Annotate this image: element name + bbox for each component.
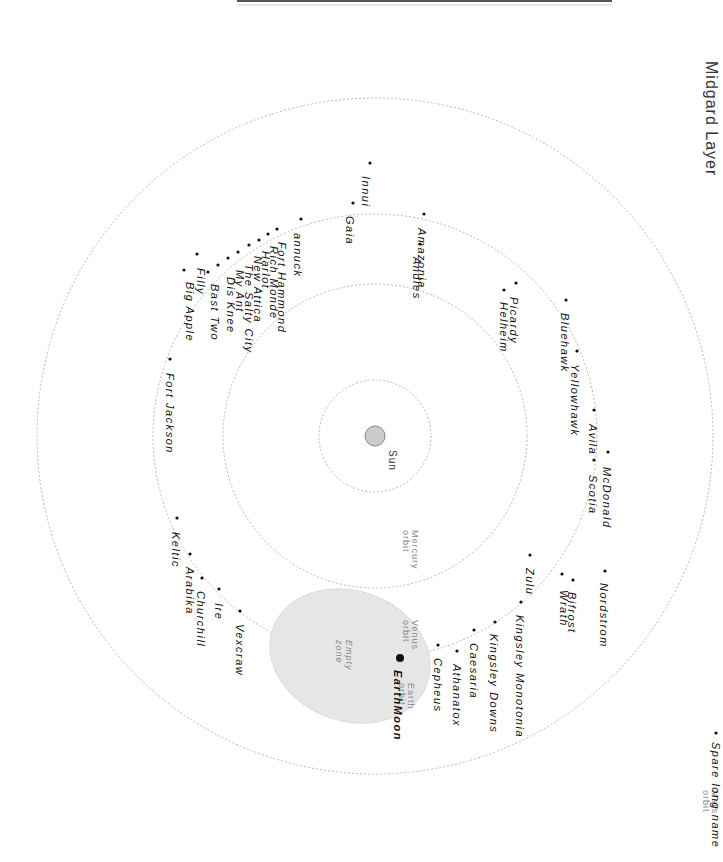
colony-label: McDonald <box>601 467 613 529</box>
colony-label: Bast Two <box>209 284 221 341</box>
colony-dot-icon[interactable] <box>472 628 475 631</box>
colony-dot-icon[interactable] <box>299 217 302 220</box>
colony-dot-icon[interactable] <box>560 572 563 575</box>
colony-dot-icon[interactable] <box>266 232 269 235</box>
colony-marker[interactable]: Bluehawk <box>559 298 571 372</box>
colony-marker[interactable]: Nordstrom <box>598 569 610 647</box>
colony-dot-icon[interactable] <box>257 238 260 241</box>
colony-label: EarthMoon <box>392 670 404 741</box>
colony-dot-icon[interactable] <box>502 288 505 291</box>
colony-label: Caesaria <box>468 643 480 699</box>
colony-label: Scotia <box>587 475 599 515</box>
colony-label: Kingsley Downs <box>488 634 500 733</box>
colony-marker[interactable]: Arabika <box>184 552 196 614</box>
colony-label: Kingsley Monotonia <box>514 615 526 738</box>
colony-marker[interactable]: annuck <box>292 217 304 277</box>
colony-dot-icon[interactable] <box>514 281 517 284</box>
colony-label: Big Apple <box>184 282 196 342</box>
colony-dot-icon[interactable] <box>564 298 567 301</box>
colony-label: Vexcraw <box>234 624 246 676</box>
orbit-labels: MercuryorbitVenusorbitEarthorbitMarsorbi… <box>397 530 720 814</box>
colony-marker[interactable]: Big Apple <box>182 268 196 342</box>
colony-marker[interactable]: Ire <box>213 587 225 620</box>
colony-label: Athanatox <box>451 663 463 727</box>
colony-label: Gaia <box>344 216 356 245</box>
colony-marker[interactable]: Cepheus <box>432 643 444 712</box>
colony-label: Ire <box>213 603 225 620</box>
colony-marker[interactable]: Kingsley Downs <box>488 620 500 733</box>
colony-dot-icon[interactable] <box>247 243 250 246</box>
colony-dot-icon[interactable] <box>236 250 239 253</box>
empty-zone-label-line2: zone <box>334 639 344 664</box>
colony-marker[interactable]: Kingsley Monotonia <box>514 600 526 738</box>
colony-label: Avila <box>587 423 599 455</box>
colony-dot-icon[interactable] <box>188 552 191 555</box>
colony-dot-icon[interactable] <box>195 252 198 255</box>
colony-dot-icon[interactable] <box>592 408 595 411</box>
colony-label: Innui <box>360 176 372 207</box>
colony-marker[interactable]: Gaia <box>344 201 356 245</box>
colony-dot-icon[interactable] <box>422 212 425 215</box>
colony-marker[interactable]: Scotia <box>587 458 599 514</box>
colony-dot-icon[interactable] <box>436 643 439 646</box>
colony-marker[interactable]: McDonald <box>601 450 613 528</box>
colony-dot-icon[interactable] <box>168 357 171 360</box>
colony-dot-icon[interactable] <box>575 349 578 352</box>
orbit-label: orbit <box>401 620 411 643</box>
colony-label: Helheim <box>498 302 510 353</box>
colony-dot-icon[interactable] <box>200 576 203 579</box>
colony-dot-icon[interactable] <box>216 263 219 266</box>
colony-marker[interactable]: Zulu <box>524 553 536 595</box>
colony-marker[interactable]: Bast Two <box>206 270 221 341</box>
colony-dot-icon[interactable] <box>351 201 354 204</box>
colony-label: Keltic <box>170 532 182 568</box>
colony-marker[interactable]: Wrath <box>558 572 570 626</box>
colony-label: annuck <box>292 233 304 277</box>
colony-marker[interactable]: Avila <box>587 408 599 455</box>
orbit-label: orbit <box>401 530 411 553</box>
colony-dot-icon[interactable] <box>528 553 531 556</box>
colony-dot-icon[interactable] <box>226 256 229 259</box>
colony-marker[interactable]: Keltic <box>170 516 182 568</box>
colony-dot-icon[interactable] <box>275 227 278 230</box>
colony-label: Nordstrom <box>598 583 610 648</box>
colony-label: Wrath <box>558 590 570 627</box>
spare-dot <box>714 731 717 734</box>
colony-marker[interactable]: Innui <box>360 161 372 207</box>
colony-label: Yellowhawk <box>569 364 581 436</box>
sun-label: Sun <box>387 450 398 471</box>
colony-dot-icon[interactable] <box>519 600 522 603</box>
colony-marker[interactable]: Fort Jackson <box>164 357 176 454</box>
colony-marker[interactable]: Vexcraw <box>234 609 246 676</box>
spare-label: Spare long name <box>710 742 722 848</box>
colony-label: Dis Knee <box>225 277 237 334</box>
solar-system-diagram: MercuryorbitVenusorbitEarthorbitMarsorbi… <box>0 0 723 862</box>
colony-label: Cepheus <box>432 658 444 713</box>
colony-dot-icon[interactable] <box>368 161 371 164</box>
page-title: Midgard Layer <box>703 61 720 176</box>
colony-dot-icon[interactable] <box>182 268 185 271</box>
colony-dot-icon[interactable] <box>606 450 609 453</box>
colony-label: Fort Jackson <box>164 373 176 454</box>
colony-dot-icon[interactable] <box>175 516 178 519</box>
colony-dot-icon[interactable] <box>396 654 404 662</box>
colony-marker[interactable]: Athanatox <box>451 649 463 727</box>
colony-dot-icon[interactable] <box>603 569 606 572</box>
colony-dot-icon[interactable] <box>493 620 496 623</box>
colony-dot-icon[interactable] <box>238 609 241 612</box>
colony-label: Andies <box>411 256 423 300</box>
orbit-label: orbit <box>701 790 711 813</box>
colony-label: Zulu <box>524 567 536 595</box>
colony-dot-icon[interactable] <box>592 458 595 461</box>
colony-marker[interactable]: Caesaria <box>468 628 480 699</box>
colony-dot-icon[interactable] <box>455 649 458 652</box>
sun-icon[interactable] <box>365 426 385 446</box>
colony-dot-icon[interactable] <box>571 578 574 581</box>
colony-label: Arabika <box>184 566 196 615</box>
colony-dot-icon[interactable] <box>217 587 220 590</box>
colony-dot-icon[interactable] <box>418 242 421 245</box>
empty-zone-label-line1: Empty <box>344 640 354 671</box>
